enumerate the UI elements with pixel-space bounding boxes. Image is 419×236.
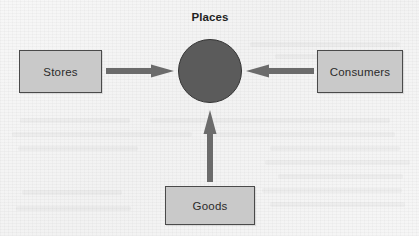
arrow-goods-to-places (203, 110, 217, 182)
diagram-canvas: Places Stores Consumers Goods (0, 0, 419, 236)
node-box-goods[interactable]: Goods (165, 186, 255, 225)
node-label-stores: Stores (43, 66, 77, 78)
node-box-consumers[interactable]: Consumers (317, 50, 403, 93)
node-label-goods: Goods (193, 200, 228, 212)
places-hub-circle (178, 39, 242, 103)
arrow-stores-to-places (106, 64, 174, 78)
arrow-consumers-to-places (246, 64, 314, 78)
node-box-stores[interactable]: Stores (19, 50, 102, 93)
node-label-consumers: Consumers (330, 66, 391, 78)
page-title: Places (191, 11, 228, 23)
